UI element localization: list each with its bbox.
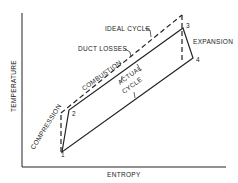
duct-losses-label: DUCT LOSSES	[78, 45, 127, 52]
point-4-label: 4	[196, 56, 200, 63]
expansion-label: EXPANSION	[193, 38, 233, 45]
ts-diagram: 1 2 3 4 IDEAL CYCLE DUCT LOSSES EXPANSIO…	[0, 0, 238, 183]
ideal-cycle-label: IDEAL CYCLE	[105, 25, 151, 32]
point-2-label: 2	[72, 110, 76, 117]
point-3-label: 3	[186, 22, 190, 29]
compression-label: COMPRESSION	[29, 103, 63, 151]
y-axis-label: TEMPERATURE	[10, 60, 17, 112]
point-1-label: 1	[61, 151, 65, 158]
x-axis-label: ENTROPY	[107, 171, 141, 178]
